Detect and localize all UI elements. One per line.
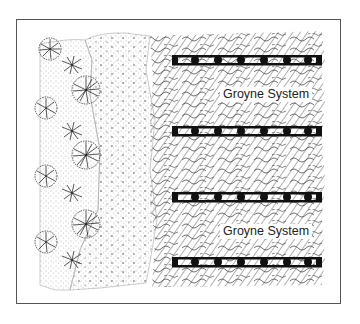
groyne-system-label-top: Groyne System [220, 87, 312, 102]
groyne-diagram [0, 0, 360, 324]
groyne-system-label-bottom: Groyne System [220, 224, 312, 239]
water-zone [150, 31, 325, 287]
